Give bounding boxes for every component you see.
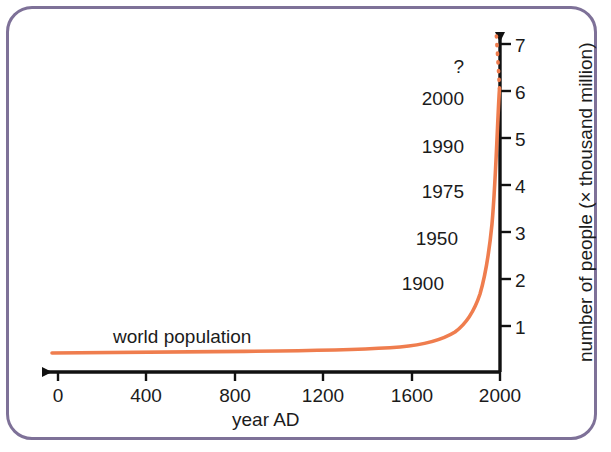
- x-tick-label-1600: 1600: [385, 386, 439, 405]
- y-tick-label-3: 3: [515, 224, 526, 243]
- annotation-year-1950: 1950: [404, 229, 458, 248]
- annotation-year-1900: 1900: [390, 274, 444, 293]
- x-tick-label-800: 800: [210, 386, 260, 405]
- x-tick-label-400: 400: [121, 386, 171, 405]
- series-label-world-population: world population: [113, 327, 251, 346]
- x-tick-label-2000: 2000: [473, 386, 527, 405]
- y-tick-label-6: 6: [515, 83, 526, 102]
- y-tick-label-4: 4: [515, 177, 526, 196]
- x-axis: [42, 372, 500, 381]
- annotation-year-1990: 1990: [410, 137, 464, 156]
- annotation-year-1975: 1975: [410, 182, 464, 201]
- x-tick-label-1200: 1200: [296, 386, 350, 405]
- chart-figure: 0 400 800 1200 1600 2000 1 2 3 4 5 6 7 y…: [0, 0, 611, 452]
- annotation-question-mark: ?: [440, 57, 464, 76]
- y-tick-label-5: 5: [515, 130, 526, 149]
- y-tick-label-7: 7: [515, 36, 526, 55]
- y-tick-label-2: 2: [515, 271, 526, 290]
- y-axis-title: number of people (× thousand million): [576, 43, 595, 363]
- x-tick-label-0: 0: [38, 386, 78, 405]
- y-tick-label-1: 1: [515, 318, 526, 337]
- y-axis: [500, 32, 511, 372]
- x-axis-title: year AD: [232, 410, 300, 429]
- annotation-year-2000: 2000: [410, 89, 464, 108]
- series-world-population: [52, 89, 500, 353]
